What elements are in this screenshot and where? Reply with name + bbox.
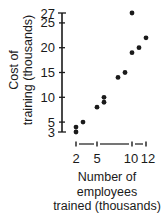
data-point — [137, 45, 142, 50]
x-axis-title: Number ofemployeestrained (thousands) — [53, 170, 161, 213]
data-point — [81, 120, 86, 125]
scatter-chart: 351015202527 251012 Cost oftraining (tho… — [0, 0, 165, 218]
x-axis-title-line: Number of — [78, 170, 137, 184]
y-axis-title-line: training (thousands) — [21, 15, 35, 125]
y-tick-label: 27 — [41, 6, 55, 21]
data-point — [123, 70, 128, 75]
data-point — [144, 35, 149, 40]
data-point — [74, 125, 79, 130]
data-point — [102, 100, 107, 105]
x-tick-label: 2 — [72, 151, 79, 166]
data-point — [95, 105, 100, 110]
data-point — [116, 75, 121, 80]
y-axis-title-line: Cost of — [7, 50, 21, 90]
data-point — [130, 11, 135, 16]
data-points — [74, 11, 149, 135]
x-tick-label: 10 — [124, 151, 138, 166]
x-axis-title-line: trained (thousands) — [53, 199, 161, 213]
data-point — [74, 130, 79, 135]
x-tick-label: 5 — [93, 151, 100, 166]
data-point — [130, 50, 135, 55]
x-axis-title-line: employees — [77, 185, 137, 199]
y-tick-label: 5 — [48, 115, 55, 130]
x-axis: 251012 — [72, 142, 155, 167]
y-axis-title: Cost oftraining (thousands) — [7, 15, 35, 125]
y-tick-label: 10 — [41, 90, 55, 105]
data-point — [102, 95, 107, 100]
x-tick-label: 12 — [141, 151, 155, 166]
y-axis: 351015202527 — [41, 6, 66, 140]
y-tick-label: 15 — [41, 65, 55, 80]
y-tick-label: 20 — [41, 40, 55, 55]
